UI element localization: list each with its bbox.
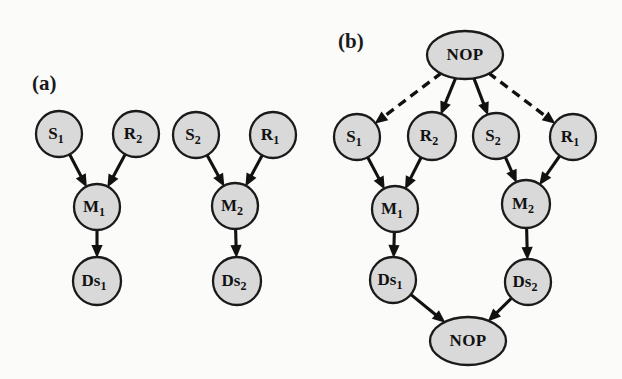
edge-line-dashed — [489, 73, 548, 118]
node-label-subscript: 2 — [528, 202, 534, 216]
node-a-r2[interactable]: R2 — [113, 111, 159, 157]
edge-line-solid — [367, 156, 380, 181]
edge-line-solid — [409, 157, 421, 181]
node-a-m2[interactable]: M2 — [212, 183, 258, 229]
edge-a-m1-to-a-ds1 — [91, 229, 102, 258]
node-label-subscript: 1 — [356, 135, 362, 149]
edge-a-s2-to-a-m2 — [207, 154, 225, 186]
edge-line-solid — [444, 77, 456, 106]
edge-line-solid — [527, 227, 528, 251]
node-label-subscript: 1 — [58, 132, 64, 146]
edge-b-m2-to-b-ds2 — [522, 227, 533, 260]
node-label: NOP — [447, 45, 484, 64]
node-a-ds2[interactable]: Ds2 — [213, 257, 261, 305]
edge-a-r2-to-a-m1 — [107, 153, 125, 187]
edge-line-solid — [250, 154, 263, 178]
node-a-m1[interactable]: M1 — [74, 184, 120, 230]
node-a-r1[interactable]: R1 — [250, 112, 296, 158]
node-layer: S1R2M1Ds1S2R1M2Ds2NOPS1R2S2R1M1M2Ds1Ds2N… — [36, 31, 596, 365]
edge-line-solid — [495, 297, 513, 314]
figure-container: S1R2M1Ds1S2R1M2Ds2NOPS1R2S2R1M1M2Ds1Ds2N… — [0, 0, 622, 379]
edge-b-s2-to-b-m2 — [505, 156, 517, 183]
node-label-subscript: 1 — [100, 279, 106, 293]
panel-label-layer: (a)(b) — [32, 29, 364, 95]
node-label: NOP — [450, 331, 487, 350]
node-b-m2[interactable]: M2 — [502, 180, 550, 228]
node-b-nop-bottom[interactable]: NOP — [430, 317, 506, 365]
node-b-s1[interactable]: S1 — [334, 114, 380, 160]
edge-b-nop-top-to-b-s2 — [474, 77, 489, 115]
node-label-subscript: 2 — [237, 204, 243, 218]
node-b-s2[interactable]: S2 — [473, 113, 519, 159]
node-label-subscript: 1 — [99, 205, 105, 219]
edge-b-m1-to-b-ds1 — [388, 231, 399, 258]
node-a-ds1[interactable]: Ds1 — [73, 257, 121, 305]
node-a-s2[interactable]: S2 — [173, 112, 219, 158]
node-b-m1[interactable]: M1 — [372, 186, 418, 232]
edge-line-solid — [545, 155, 561, 177]
panel-label-b: (b) — [338, 29, 364, 53]
node-label-subscript: 1 — [573, 135, 579, 149]
node-label-subscript: 2 — [195, 133, 201, 147]
arrowhead-icon — [539, 171, 551, 185]
edge-layer — [69, 73, 560, 323]
node-label-subscript: 1 — [273, 133, 279, 147]
node-a-s1[interactable]: S1 — [36, 111, 82, 157]
arrowhead-icon — [440, 101, 450, 115]
edge-b-ds2-to-b-nop-bottom — [488, 297, 512, 321]
node-label-subscript: 1 — [396, 278, 402, 292]
node-b-ds2[interactable]: Ds2 — [505, 259, 551, 305]
edge-line-solid — [207, 154, 220, 178]
node-b-r2[interactable]: R2 — [408, 112, 456, 160]
edge-a-r1-to-a-m2 — [245, 154, 262, 186]
edge-b-ds1-to-b-nop-bottom — [410, 294, 445, 323]
edge-b-r2-to-b-m1 — [405, 157, 422, 190]
node-b-nop-top[interactable]: NOP — [427, 31, 503, 79]
node-label-subscript: 2 — [495, 134, 501, 148]
node-label-subscript: 2 — [240, 279, 246, 293]
node-b-ds1[interactable]: Ds1 — [370, 257, 416, 303]
edge-line-solid — [69, 154, 82, 180]
task-graph-diagram: S1R2M1Ds1S2R1M2Ds2NOPS1R2S2R1M1M2Ds1Ds2N… — [0, 0, 622, 379]
edge-b-nop-top-to-b-r2 — [440, 77, 456, 114]
edge-b-s1-to-b-m1 — [367, 156, 384, 189]
node-label-subscript: 2 — [136, 132, 142, 146]
panel-label-a: (a) — [32, 71, 57, 95]
edge-line-solid — [474, 77, 485, 106]
edge-b-r1-to-b-m2 — [539, 155, 560, 185]
arrowhead-icon — [478, 101, 488, 115]
node-label-subscript: 1 — [397, 207, 403, 221]
edge-line-solid — [112, 153, 126, 179]
node-label-subscript: 2 — [531, 280, 537, 294]
edge-a-s1-to-a-m1 — [69, 154, 87, 188]
edge-a-m2-to-a-ds2 — [230, 228, 241, 258]
node-b-r1[interactable]: R1 — [550, 114, 596, 160]
edge-line-solid — [410, 294, 438, 317]
node-label-subscript: 2 — [432, 134, 438, 148]
